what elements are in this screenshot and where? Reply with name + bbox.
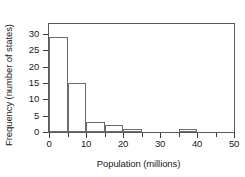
y-axis-tick-label: 20 (9, 62, 39, 71)
x-axis-tick-label: 10 (71, 138, 101, 149)
y-axis-tick (43, 34, 48, 35)
histogram-figure: Frequency (number of states) 05101520253… (0, 0, 245, 177)
histogram-bar (49, 37, 68, 132)
y-axis-tick-label: 5 (9, 111, 39, 120)
y-axis-tick (43, 83, 48, 84)
y-axis-tick-label: 25 (9, 45, 39, 54)
histogram-bar (105, 125, 124, 132)
y-axis-tick (43, 132, 48, 133)
y-axis-tick-label: 10 (9, 94, 39, 103)
y-axis-tick (43, 67, 48, 68)
bars-layer (49, 24, 234, 132)
x-axis-tick (105, 133, 106, 137)
x-axis-tick (142, 133, 143, 137)
x-axis-tick-label: 30 (145, 138, 175, 149)
x-axis-label: Population (millions) (36, 158, 241, 169)
x-axis-tick-label: 40 (182, 138, 212, 149)
histogram-bar (86, 122, 105, 132)
y-axis-tick-label: 15 (9, 78, 39, 87)
histogram-bar (123, 129, 142, 132)
x-axis-tick-label: 20 (108, 138, 138, 149)
histogram-bar (179, 129, 198, 132)
x-axis-tick (216, 133, 217, 137)
x-axis-tick (179, 133, 180, 137)
y-axis-tick (43, 99, 48, 100)
x-axis-tick-label: 0 (34, 138, 64, 149)
y-axis-tick (43, 116, 48, 117)
y-axis-tick-label: 30 (9, 29, 39, 38)
histogram-bar (68, 83, 87, 132)
x-axis-tick (68, 133, 69, 137)
x-axis-tick-label: 50 (219, 138, 245, 149)
y-axis-tick (43, 50, 48, 51)
y-axis-tick-label: 0 (9, 127, 39, 136)
